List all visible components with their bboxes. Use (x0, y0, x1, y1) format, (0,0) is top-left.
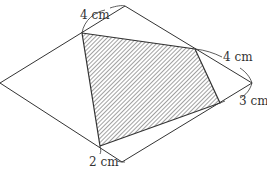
label-top-left: 4 cm (80, 8, 110, 22)
label-right-upper: 4 cm (223, 50, 253, 64)
label-right-lower: 3 cm (239, 94, 267, 108)
geometry-diagram: 4 cm 4 cm 3 cm 2 cm (0, 0, 267, 174)
label-bottom: 2 cm (89, 155, 119, 169)
